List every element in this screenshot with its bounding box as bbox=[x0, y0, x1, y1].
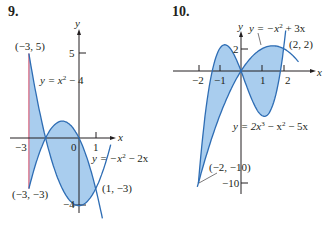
tick-label-1-10: 1 bbox=[260, 74, 266, 86]
y-axis-label-10: y bbox=[237, 20, 243, 32]
tick-label-m3-9: −3 bbox=[15, 141, 27, 153]
tick-label-m1-10: −1 bbox=[214, 74, 226, 86]
x-axis-arrow-9 bbox=[110, 136, 116, 140]
graph-10: y x −2 −1 1 2 2 −10 (2, 2) (−2, −10) y =… bbox=[173, 20, 322, 194]
point-label-m3-m3: (−3, −3) bbox=[12, 188, 49, 201]
tick-label-y2-10: 2 bbox=[233, 43, 239, 55]
tick-label-m2-10: −2 bbox=[192, 74, 204, 86]
point-label-m3-5: (−3, 5) bbox=[15, 40, 45, 53]
curve-label-x2-minus-4: y = x2 − 4 bbox=[39, 74, 84, 86]
y-axis-arrow-9 bbox=[77, 29, 81, 35]
tick-label-2-10: 2 bbox=[285, 74, 291, 86]
x-axis-arrow-10 bbox=[310, 69, 316, 73]
leader-line-point-m2-m10 bbox=[199, 173, 217, 183]
curve-label-neg-x2-minus-2x: y = −x2 − 2x bbox=[91, 152, 149, 164]
y-axis-label-9: y bbox=[74, 17, 80, 29]
tick-label-5-9: 5 bbox=[69, 47, 75, 59]
point-label-2-2: (2, 2) bbox=[289, 38, 313, 51]
curve-label-neg-x2-plus-3x: y = −x2 + 3x bbox=[248, 22, 306, 34]
point-label-1-m3: (1, −3) bbox=[102, 182, 132, 195]
tick-label-0-9: 0 bbox=[71, 141, 77, 153]
plots: y x 5 −4 −3 0 1 (−3, 5) (−3, −3) (1, −3)… bbox=[0, 0, 326, 230]
curve-label-2x3-minus-x2-minus-5x: y = 2x3 − x2 − 5x bbox=[232, 120, 309, 132]
tick-label-m10-10: −10 bbox=[222, 177, 240, 189]
x-axis-label-9: x bbox=[117, 131, 123, 143]
x-axis-label-10: x bbox=[316, 66, 322, 78]
graph-9: y x 5 −4 −3 0 1 (−3, 5) (−3, −3) (1, −3)… bbox=[10, 17, 149, 218]
point-label-m2-m10: (−2, −10) bbox=[209, 161, 251, 174]
tick-label-m4-9: −4 bbox=[63, 198, 75, 210]
leader-line-curve1-10 bbox=[258, 33, 261, 45]
